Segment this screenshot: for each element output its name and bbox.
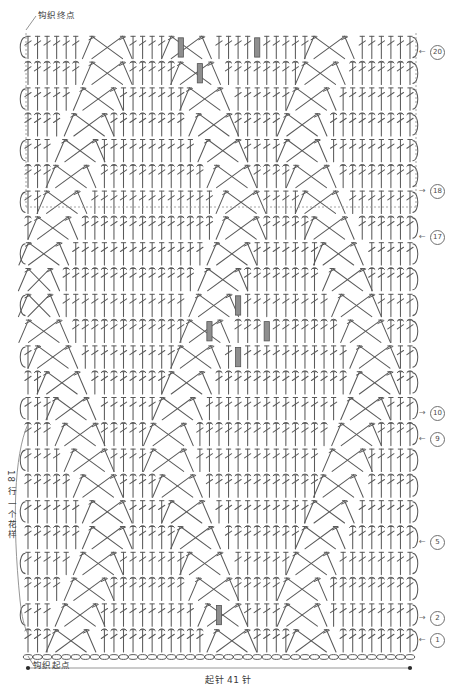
stitch-row-10: [20, 398, 418, 420]
stitch-row-12: [20, 346, 418, 368]
foundation-chain-row: [23, 655, 414, 660]
row-direction-arrow: ←: [419, 230, 426, 243]
row-direction-arrow: ←: [419, 432, 426, 445]
row-direction-arrow: ←: [419, 535, 426, 548]
stitch-row-9: [25, 422, 418, 445]
pattern-repeat-label: 18 行 一个花样: [2, 470, 16, 540]
stitch-row-7: [25, 474, 418, 497]
stitch-row-6: [20, 501, 418, 523]
row-number-5: 5: [430, 535, 445, 550]
cast-on-measure-line: [26, 666, 412, 670]
stitch-row-17: [25, 216, 418, 239]
row-direction-arrow: ←: [419, 45, 426, 58]
stitch-row-21: [25, 113, 418, 136]
pattern-repeat-bracket: [15, 424, 28, 634]
stitch-row-19: [25, 164, 418, 187]
row-number-18: 18: [430, 184, 445, 199]
row-number-9: 9: [430, 432, 445, 447]
row-number-17: 17: [430, 230, 445, 245]
stitch-row-23: [25, 61, 418, 84]
stitch-row-4: [20, 552, 418, 574]
stitch-row-1: [25, 629, 418, 652]
row-direction-arrow: →: [419, 406, 426, 419]
row-direction-arrow: →: [419, 184, 426, 197]
row-direction-arrow: ←: [419, 633, 426, 646]
crochet-start-label: 钩织起点: [33, 661, 70, 670]
stitch-row-24: [20, 36, 418, 58]
stitch-row-20: [20, 140, 418, 162]
stitch-row-2: [20, 604, 418, 626]
cast-on-count-label: 起针 41 针: [0, 676, 457, 685]
stitch-row-3: [25, 577, 418, 600]
stitch-row-8: [20, 449, 418, 471]
row-number-20: 20: [430, 45, 445, 60]
crochet-stitch-diagram: [0, 0, 457, 699]
row-number-2: 2: [430, 611, 445, 626]
stitch-row-11: [25, 371, 418, 394]
row-number-10: 10: [430, 406, 445, 421]
row-number-1: 1: [430, 633, 445, 648]
stitch-row-14: [18, 294, 417, 316]
stitch-row-15: [18, 268, 417, 291]
stitch-row-22: [20, 88, 418, 110]
crochet-end-label: 钩织终点: [38, 11, 75, 20]
stitch-row-13: [19, 319, 418, 342]
crochet-chart-page: 钩织终点 钩织起点 起针 41 针 18 行 一个花样 ←20→18←17→10…: [0, 0, 457, 699]
stitch-row-16: [19, 243, 418, 265]
stitch-row-18: [20, 191, 418, 213]
stitch-row-5: [25, 526, 418, 549]
row-direction-arrow: →: [419, 611, 426, 624]
